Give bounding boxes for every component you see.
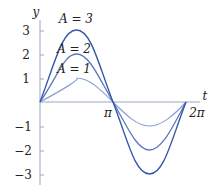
- x-tick-label-pi: π: [103, 106, 113, 120]
- y-axis-label: y: [32, 5, 40, 19]
- annotation-a3: A = 3: [58, 12, 93, 26]
- y-tick-label-1: 1: [22, 72, 30, 86]
- annotation-a2: A = 2: [56, 42, 91, 56]
- annotation-a1: A = 1: [56, 62, 91, 76]
- y-ticks: [40, 31, 44, 175]
- x-tick-label-2pi: 2π: [188, 106, 206, 120]
- amplitude-sine-chart: 3 2 1 −1 −2 −3 y t π 2π A = 3 A = 2 A = …: [0, 0, 220, 192]
- y-tick-label-m2: −2: [14, 144, 32, 158]
- y-tick-label-3: 3: [22, 24, 30, 38]
- y-tick-label-m3: −3: [14, 168, 32, 182]
- y-tick-label-m1: −1: [14, 120, 32, 134]
- t-axis-label: t: [203, 89, 208, 103]
- y-tick-label-2: 2: [22, 48, 30, 62]
